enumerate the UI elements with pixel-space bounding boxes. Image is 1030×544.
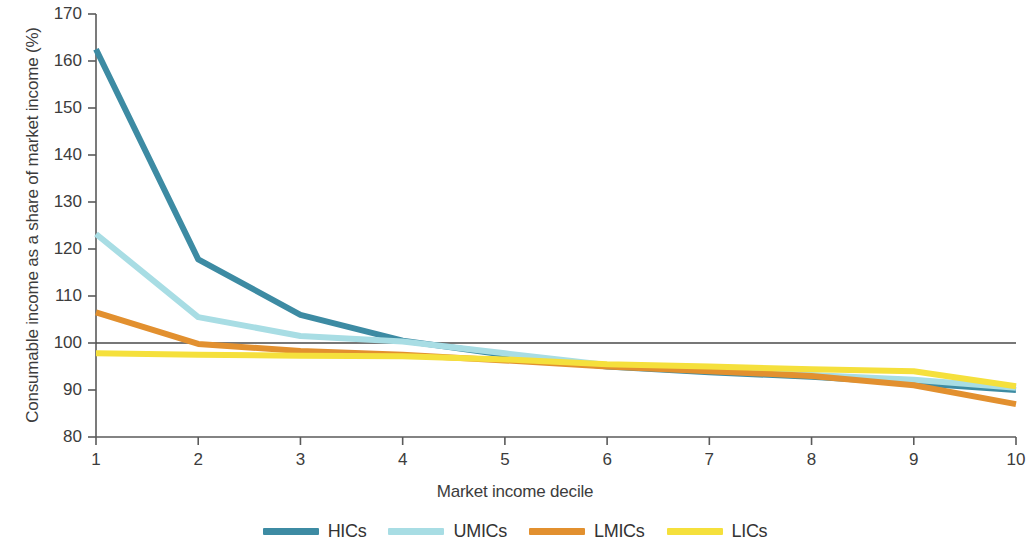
chart-legend: HICsUMICsLMICsLICs — [0, 521, 1030, 542]
y-tick-label: 160 — [36, 52, 82, 69]
x-tick-label: 5 — [485, 451, 525, 468]
legend-label: LICs — [732, 521, 768, 542]
legend-item-lics: LICs — [667, 521, 768, 542]
y-tick-label: 80 — [36, 428, 82, 445]
legend-swatch-icon — [263, 528, 319, 535]
x-tick-label: 4 — [383, 451, 423, 468]
x-axis-title: Market income decile — [0, 482, 1030, 502]
x-tick-label: 9 — [894, 451, 934, 468]
y-tick-label: 90 — [36, 381, 82, 398]
legend-item-lmics: LMICs — [529, 521, 645, 542]
legend-item-hics: HICs — [263, 521, 367, 542]
data-series-layer — [96, 49, 1016, 404]
y-tick-label: 110 — [36, 287, 82, 304]
x-tick-label: 10 — [996, 451, 1030, 468]
y-tick-label: 150 — [36, 99, 82, 116]
x-tick-label: 8 — [792, 451, 832, 468]
legend-item-umics: UMICs — [388, 521, 507, 542]
x-tick-label: 6 — [587, 451, 627, 468]
y-tick-label: 140 — [36, 146, 82, 163]
legend-label: UMICs — [453, 521, 507, 542]
legend-swatch-icon — [388, 528, 444, 535]
legend-swatch-icon — [529, 528, 585, 535]
x-tick-label: 3 — [280, 451, 320, 468]
x-tick-label: 7 — [689, 451, 729, 468]
y-tick-label: 100 — [36, 334, 82, 351]
x-tick-label: 1 — [76, 451, 116, 468]
line-chart: Consumable income as a share of market i… — [0, 0, 1030, 544]
legend-label: LMICs — [594, 521, 645, 542]
series-line-hics — [96, 49, 1016, 390]
y-tick-label: 170 — [36, 5, 82, 22]
legend-label: HICs — [328, 521, 367, 542]
x-tick-label: 2 — [178, 451, 218, 468]
y-tick-label: 130 — [36, 193, 82, 210]
y-tick-label: 120 — [36, 240, 82, 257]
legend-swatch-icon — [667, 528, 723, 535]
